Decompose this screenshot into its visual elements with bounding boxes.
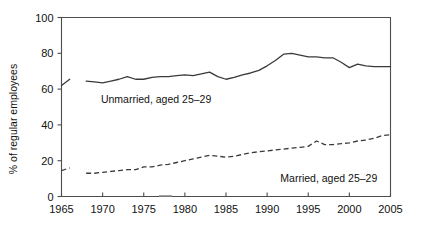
x-tick-label: 1965 [49,203,73,215]
x-tick-label: 1975 [132,203,156,215]
chart-figure: 020406080100 196519701975198019851990199… [0,0,433,238]
y-tick-label: 40 [41,119,53,131]
y-tick-label: 60 [41,83,53,95]
x-tick-label: 1995 [296,203,320,215]
y-axis-tick-labels: 020406080100 [35,12,53,203]
x-tick-label: 2000 [337,203,361,215]
series-line-married [62,135,391,173]
series-annotation-married: Married, aged 25–29 [280,172,377,184]
plot-frame [62,18,391,197]
x-tick-label: 1990 [255,203,279,215]
y-tick-label: 0 [47,191,53,203]
x-tick-label: 1985 [214,203,238,215]
series-annotation-unmarried: Unmarried, aged 25–29 [101,93,211,105]
y-tick-label: 100 [35,12,53,24]
x-axis-tick-labels: 196519701975198019851990199520002005 [49,203,402,215]
x-tick-label: 1980 [173,203,197,215]
y-tick-label: 20 [41,155,53,167]
x-tick-label: 1970 [90,203,114,215]
y-axis-tick-marks [58,18,62,197]
x-tick-label: 2005 [378,203,402,215]
x-axis-tick-marks [62,193,391,197]
series-line-unmarried [62,53,391,85]
plot-frame-border [62,18,391,197]
y-axis-title: % of regular employees [7,64,19,174]
y-tick-label: 80 [41,47,53,59]
line-chart-svg: 020406080100 196519701975198019851990199… [0,0,433,238]
